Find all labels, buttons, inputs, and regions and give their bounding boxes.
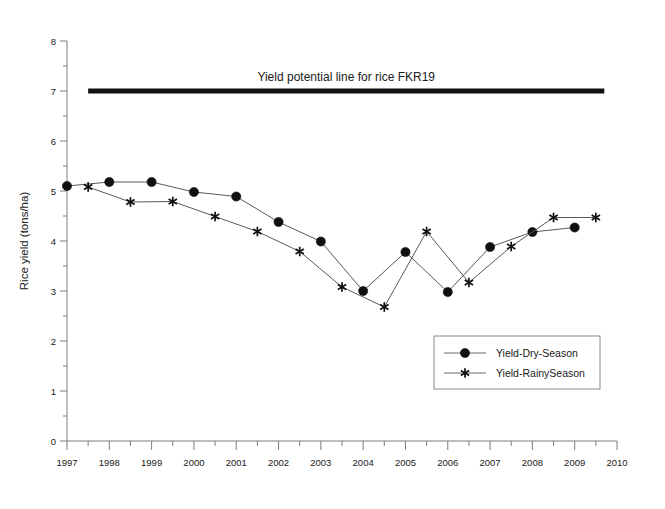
marker-filled-circle — [189, 187, 198, 196]
marker-filled-circle — [147, 177, 156, 186]
x-axis-tick-label: 1999 — [141, 457, 162, 468]
y-axis-tick-label: 0 — [51, 436, 56, 447]
x-axis-tick-label: 1998 — [99, 457, 120, 468]
marker-filled-circle — [105, 177, 114, 186]
marker-filled-circle — [485, 242, 494, 251]
y-axis-tick-label: 2 — [51, 336, 56, 347]
chart-figure: 012345678 199719981999200020012002200320… — [0, 0, 665, 509]
x-axis-tick-label: 2002 — [268, 457, 289, 468]
marker-filled-circle — [62, 181, 71, 190]
marker-filled-circle — [460, 348, 469, 357]
legend-box — [434, 336, 600, 389]
y-axis-tick-label: 4 — [51, 236, 56, 247]
legend-entry-label: Yield-Dry-Season — [496, 347, 578, 359]
y-axis-tick-label: 3 — [51, 286, 56, 297]
x-axis-tick-label: 2001 — [226, 457, 247, 468]
x-axis-tick-label: 2006 — [437, 457, 458, 468]
marker-filled-circle — [316, 237, 325, 246]
legend-entry-label: Yield-RainySeason — [496, 367, 585, 379]
marker-filled-circle — [274, 217, 283, 226]
chart-canvas: 012345678 199719981999200020012002200320… — [0, 0, 665, 509]
y-axis-tick-label: 7 — [51, 86, 56, 97]
yield-potential-label: Yield potential line for rice FKR19 — [257, 70, 435, 84]
y-axis-tick-label: 1 — [51, 386, 56, 397]
x-axis-tick-label: 1997 — [56, 457, 77, 468]
x-axis-tick-label: 2010 — [606, 457, 627, 468]
legend-entry[interactable]: Yield-Dry-Season — [444, 347, 578, 359]
x-axis-tick-label: 2004 — [353, 457, 374, 468]
marker-filled-circle — [359, 286, 368, 295]
y-axis-title: Rice yield (tons/ha) — [18, 192, 30, 291]
legend-entry[interactable]: Yield-RainySeason — [444, 367, 585, 379]
chart-legend: Yield-Dry-SeasonYield-RainySeason — [434, 336, 600, 389]
marker-filled-circle — [401, 247, 410, 256]
y-axis-tick-label: 5 — [51, 186, 56, 197]
y-axis-tick-label: 6 — [51, 136, 56, 147]
x-axis-tick-label: 2003 — [310, 457, 331, 468]
marker-filled-circle — [232, 192, 241, 201]
x-axis-tick-label: 2007 — [480, 457, 501, 468]
x-axis-tick-label: 2005 — [395, 457, 416, 468]
x-axis-tick-label: 2008 — [522, 457, 543, 468]
x-axis-tick-label: 2009 — [564, 457, 585, 468]
y-axis-tick-label: 8 — [51, 36, 56, 47]
marker-filled-circle — [443, 287, 452, 296]
x-axis-tick-label: 2000 — [183, 457, 204, 468]
marker-filled-circle — [570, 223, 579, 232]
